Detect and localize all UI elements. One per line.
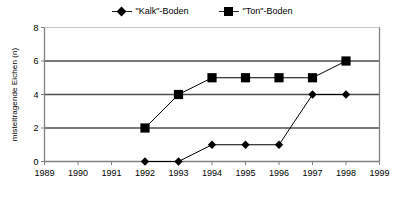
x-tick-label-1989: 1989 <box>34 168 54 178</box>
x-tick-label-1995: 1995 <box>235 168 255 178</box>
data-point-ton-boden-1996 <box>274 73 283 82</box>
data-point-kalk-boden-1998 <box>342 90 350 98</box>
data-point-ton-boden-1998 <box>341 56 350 65</box>
y-tick-label-0: 0 <box>33 157 38 167</box>
x-tick-label-1993: 1993 <box>168 168 188 178</box>
data-point-ton-boden-1993 <box>174 90 183 99</box>
x-tick-label-1996: 1996 <box>269 168 289 178</box>
y-tick-label-6: 6 <box>33 56 38 66</box>
series-group <box>140 56 350 165</box>
data-point-kalk-boden-1992 <box>141 157 149 165</box>
data-point-kalk-boden-1997 <box>308 90 316 98</box>
data-point-kalk-boden-1994 <box>208 141 216 149</box>
data-point-kalk-boden-1993 <box>174 157 182 165</box>
x-tick-label-1994: 1994 <box>202 168 222 178</box>
x-tick-labels-group: 1989199019911992199319941995199619971998… <box>34 168 389 178</box>
y-tick-label-2: 2 <box>33 123 38 133</box>
data-point-ton-boden-1992 <box>140 123 149 132</box>
data-point-ton-boden-1997 <box>308 73 317 82</box>
x-tick-label-1992: 1992 <box>135 168 155 178</box>
data-point-ton-boden-1994 <box>207 73 216 82</box>
data-point-kalk-boden-1996 <box>275 141 283 149</box>
x-tick-label-1997: 1997 <box>302 168 322 178</box>
x-tick-label-1990: 1990 <box>68 168 88 178</box>
x-tick-label-1991: 1991 <box>101 168 121 178</box>
plot-area: 1989199019911992199319941995199619971998… <box>0 0 404 197</box>
x-tick-label-1999: 1999 <box>369 168 389 178</box>
y-tick-label-4: 4 <box>33 90 38 100</box>
x-tick-label-1998: 1998 <box>336 168 356 178</box>
y-tick-labels-group: 02468 <box>33 23 38 167</box>
chart-container: "Kalk"-Boden "Ton"-Boden misteltragende … <box>0 0 404 197</box>
data-point-kalk-boden-1995 <box>241 141 249 149</box>
data-point-ton-boden-1995 <box>241 73 250 82</box>
y-tick-label-8: 8 <box>33 23 38 33</box>
